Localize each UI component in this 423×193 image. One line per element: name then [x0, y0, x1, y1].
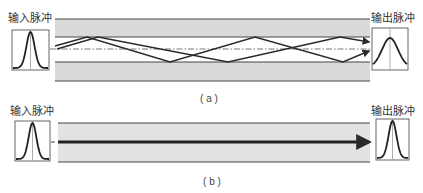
output-pulse-box	[376, 119, 409, 160]
panel-a-multimode-fiber: 输入脉冲 输出脉冲 ( a )	[8, 11, 415, 104]
output-pulse-label: 输出脉冲	[371, 11, 415, 25]
output-pulse-box	[372, 28, 408, 70]
panel-a-caption: ( a )	[200, 93, 218, 104]
input-pulse-box	[12, 30, 49, 70]
lower-cladding	[55, 62, 370, 81]
input-pulse-label: 输入脉冲	[10, 104, 54, 118]
fiber-dispersion-diagram: 输入脉冲 输出脉冲 ( a ) 输入脉冲 输出脉冲	[0, 0, 423, 193]
input-pulse-box	[15, 121, 50, 161]
panel-b-singlemode-fiber: 输入脉冲 输出脉冲 ( b )	[10, 104, 415, 187]
input-pulse-label: 输入脉冲	[8, 11, 52, 25]
panel-b-caption: ( b )	[203, 176, 221, 187]
upper-cladding	[55, 19, 370, 37]
output-pulse-label: 输出脉冲	[371, 104, 415, 118]
